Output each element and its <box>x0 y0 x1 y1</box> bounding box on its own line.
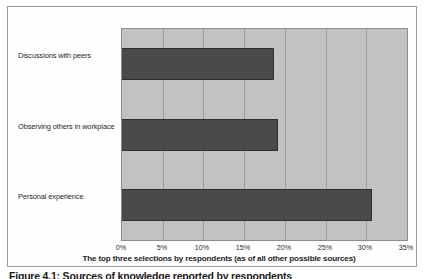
bar <box>122 189 372 221</box>
x-tick-label: 10% <box>195 243 209 252</box>
x-tick-label: 25% <box>318 243 332 252</box>
x-tick-label: 20% <box>277 243 291 252</box>
x-tick-label: 35% <box>399 243 413 252</box>
plot-area <box>121 28 408 241</box>
x-tick-label: 5% <box>157 243 167 252</box>
x-tick-label: 0% <box>116 243 126 252</box>
x-axis-title: The top three selections by respondents … <box>16 254 422 263</box>
bar <box>122 119 278 151</box>
figure-caption: Figure 4.1: Sources of knowledge reporte… <box>9 270 424 279</box>
category-axis: Discussions with peersObserving others i… <box>18 25 118 241</box>
gridline <box>407 29 408 240</box>
x-tick-label: 30% <box>358 243 372 252</box>
bar <box>122 48 274 80</box>
category-label: Observing others in workplace <box>18 122 118 132</box>
chart-frame: Discussions with peersObserving others i… <box>7 6 417 267</box>
category-label: Personal experience <box>18 192 118 202</box>
x-tick-label: 15% <box>236 243 250 252</box>
category-label: Discussions with peers <box>18 51 118 61</box>
figure-screenshot: Discussions with peersObserving others i… <box>0 0 424 279</box>
